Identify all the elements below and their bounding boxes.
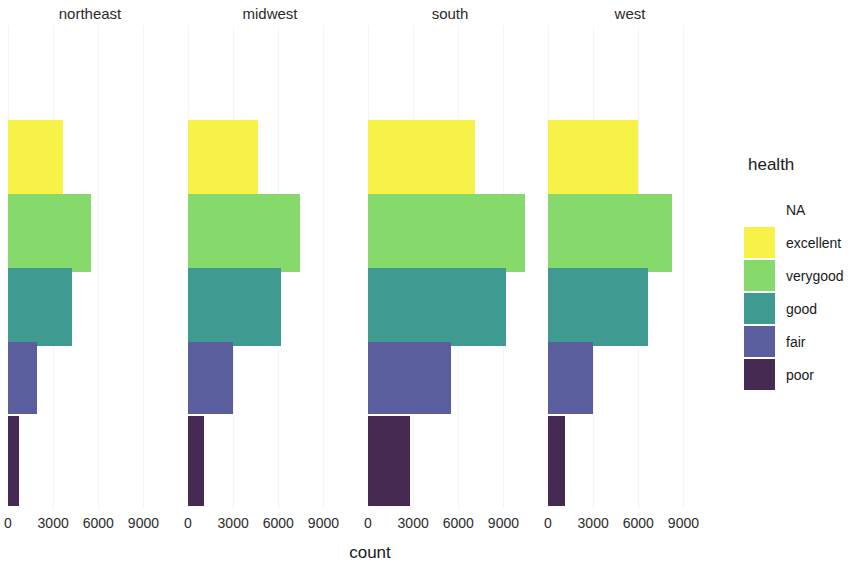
legend-label: NA	[786, 202, 805, 218]
bar-northeast-fair	[8, 342, 37, 414]
bar-midwest-excellent	[188, 120, 258, 196]
bar-midwest-verygood	[188, 194, 300, 272]
legend-swatch-poor-icon	[744, 359, 775, 390]
grid-line	[98, 26, 99, 509]
bar-midwest-good	[188, 268, 281, 346]
legend-label: verygood	[786, 268, 844, 284]
x-axis-ticks-northeast: 0300060009000	[0, 515, 180, 535]
bar-west-verygood	[548, 194, 672, 272]
legend-items: NAexcellentverygoodgoodfairpoor	[744, 193, 862, 391]
legend-label: poor	[786, 367, 814, 383]
bar-south-verygood	[368, 194, 525, 272]
facet-label-midwest: midwest	[180, 4, 360, 24]
bar-northeast-poor	[8, 416, 19, 506]
bar-northeast-excellent	[8, 120, 63, 196]
x-tick-label: 0	[544, 515, 552, 531]
x-tick-label: 3000	[398, 515, 429, 531]
legend-label: good	[786, 301, 817, 317]
legend-item-poor[interactable]: poor	[744, 358, 862, 391]
legend-swatch-excellent-icon	[744, 227, 775, 258]
bar-northeast-good	[8, 268, 72, 346]
legend-swatch-na-icon	[744, 194, 775, 225]
legend-label: excellent	[786, 235, 841, 251]
bar-northeast-verygood	[8, 194, 91, 272]
bar-midwest-poor	[188, 416, 204, 506]
legend-item-na[interactable]: NA	[744, 193, 862, 226]
x-tick-label: 0	[184, 515, 192, 531]
legend-item-verygood[interactable]: verygood	[744, 259, 862, 292]
bar-west-good	[548, 268, 648, 346]
legend-item-fair[interactable]: fair	[744, 325, 862, 358]
legend-title: health	[748, 155, 862, 175]
bar-south-excellent	[368, 120, 475, 196]
x-tick-label: 9000	[488, 515, 519, 531]
facet-label-west: west	[540, 4, 720, 24]
x-tick-label: 9000	[308, 515, 339, 531]
legend-swatch-fair-icon	[744, 326, 775, 357]
x-tick-label: 6000	[443, 515, 474, 531]
x-tick-label: 6000	[623, 515, 654, 531]
x-tick-label: 0	[364, 515, 372, 531]
grid-line	[683, 26, 684, 509]
bar-west-poor	[548, 416, 565, 506]
x-axis-ticks-south: 0300060009000	[360, 515, 540, 535]
x-tick-label: 0	[4, 515, 12, 531]
legend-item-excellent[interactable]: excellent	[744, 226, 862, 259]
panel-midwest	[180, 26, 360, 509]
x-tick-label: 9000	[668, 515, 699, 531]
x-axis-ticks-west: 0300060009000	[540, 515, 720, 535]
bar-west-excellent	[548, 120, 638, 196]
faceted-bar-chart: northeast midwest south west 03000600090…	[0, 0, 864, 571]
x-tick-label: 3000	[578, 515, 609, 531]
x-axis-ticks-midwest: 0300060009000	[180, 515, 360, 535]
bar-south-poor	[368, 416, 410, 506]
grid-line	[143, 26, 144, 509]
bar-west-fair	[548, 342, 593, 414]
x-tick-label: 9000	[128, 515, 159, 531]
bar-south-good	[368, 268, 506, 346]
panel-west	[540, 26, 720, 509]
legend-swatch-verygood-icon	[744, 260, 775, 291]
x-tick-label: 6000	[83, 515, 114, 531]
x-tick-label: 6000	[263, 515, 294, 531]
panel-south	[360, 26, 540, 509]
panel-northeast	[0, 26, 180, 509]
bar-midwest-fair	[188, 342, 233, 414]
grid-line	[323, 26, 324, 509]
facet-label-south: south	[360, 4, 540, 24]
legend-label: fair	[786, 334, 805, 350]
x-axis-title: count	[0, 543, 740, 563]
facet-label-northeast: northeast	[0, 4, 180, 24]
bar-south-fair	[368, 342, 451, 414]
legend-swatch-good-icon	[744, 293, 775, 324]
x-tick-label: 3000	[218, 515, 249, 531]
legend: health NAexcellentverygoodgoodfairpoor	[744, 155, 862, 391]
x-tick-label: 3000	[38, 515, 69, 531]
legend-item-good[interactable]: good	[744, 292, 862, 325]
